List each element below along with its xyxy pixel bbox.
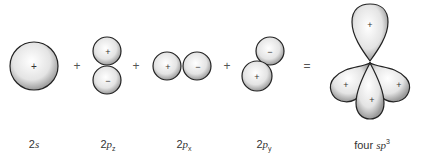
svg-text:+: +: [396, 80, 401, 90]
orbital-diagram: + + − + − − + + + + +: [0, 0, 422, 153]
equals-operator: =: [303, 59, 310, 73]
label-four-sp3: four sp3: [354, 138, 390, 151]
svg-text:−: −: [195, 62, 200, 72]
orbital-sp3: + + + +: [330, 4, 409, 119]
svg-text:−: −: [105, 76, 110, 86]
svg-text:+: +: [367, 20, 372, 30]
plus-operator: +: [132, 59, 139, 73]
sign-plus: +: [31, 61, 37, 72]
label-2py: 2py: [256, 138, 271, 152]
svg-text:+: +: [165, 62, 170, 72]
orbital-2s: +: [10, 42, 58, 90]
svg-text:+: +: [343, 80, 348, 90]
orbital-2px: + −: [153, 52, 211, 80]
orbital-2pz: + −: [93, 37, 121, 94]
label-2pz: 2pz: [100, 138, 115, 152]
svg-text:+: +: [369, 95, 374, 105]
svg-text:+: +: [254, 72, 259, 82]
svg-text:−: −: [267, 47, 272, 57]
plus-operator: +: [73, 59, 80, 73]
svg-text:+: +: [105, 47, 110, 57]
plus-operator: +: [223, 59, 230, 73]
orbital-2py: − +: [242, 37, 284, 91]
label-2px: 2px: [176, 138, 191, 152]
label-2s: 2s: [29, 138, 39, 150]
